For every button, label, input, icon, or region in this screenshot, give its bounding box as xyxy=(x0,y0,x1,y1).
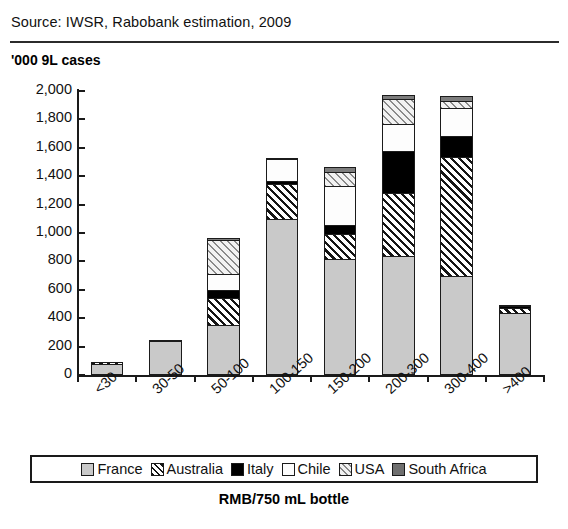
legend-swatch-italy-icon xyxy=(231,463,244,476)
y-tick-label: 2,000 xyxy=(36,81,72,97)
bar-segment-australia[interactable] xyxy=(324,234,357,260)
legend-label: USA xyxy=(355,461,385,477)
x-tick-mark xyxy=(485,375,487,382)
legend-item-usa[interactable]: USA xyxy=(339,461,385,477)
bar-segment-australia[interactable] xyxy=(440,157,473,276)
bar-group[interactable] xyxy=(266,159,299,375)
x-tick-mark xyxy=(135,375,137,382)
x-tick-mark xyxy=(77,375,79,382)
legend-item-southafrica[interactable]: South Africa xyxy=(392,461,486,477)
legend-label: South Africa xyxy=(408,461,486,477)
x-tick-mark xyxy=(427,375,429,382)
y-tick-label: 600 xyxy=(48,280,72,296)
bar-group[interactable] xyxy=(440,97,473,375)
bar-segment-chile[interactable] xyxy=(382,124,415,152)
bar-segment-france[interactable] xyxy=(266,219,299,375)
legend-item-france[interactable]: France xyxy=(81,461,142,477)
legend-item-italy[interactable]: Italy xyxy=(231,461,274,477)
y-tick-label: 1,000 xyxy=(36,223,72,239)
x-axis-title: RMB/750 mL bottle xyxy=(0,491,568,507)
bar-segment-australia[interactable] xyxy=(207,298,240,326)
bar-segment-chile[interactable] xyxy=(440,108,473,136)
x-tick-mark xyxy=(252,375,254,382)
bar-segment-italy[interactable] xyxy=(382,151,415,194)
bar-segment-chile[interactable] xyxy=(207,274,240,291)
chart-legend: FranceAustraliaItalyChileUSASouth Africa xyxy=(30,455,538,483)
bar-segment-france[interactable] xyxy=(382,256,415,375)
x-tick-mark xyxy=(194,375,196,382)
legend-label: Australia xyxy=(167,461,223,477)
bar-group[interactable] xyxy=(324,168,357,375)
source-note: Source: IWSR, Rabobank estimation, 2009 xyxy=(11,14,557,30)
bar-group[interactable] xyxy=(382,96,415,375)
y-tick-label: 200 xyxy=(48,337,72,353)
x-tick-mark xyxy=(368,375,370,382)
bar-group[interactable] xyxy=(207,239,240,375)
header-divider xyxy=(10,41,559,43)
legend-item-australia[interactable]: Australia xyxy=(151,461,223,477)
legend-swatch-chile-icon xyxy=(282,463,295,476)
y-tick-label: 1,800 xyxy=(36,109,72,125)
bar-segment-italy[interactable] xyxy=(440,136,473,159)
legend-label: Chile xyxy=(298,461,331,477)
bar-segment-france[interactable] xyxy=(324,259,357,375)
legend-swatch-australia-icon xyxy=(151,463,164,476)
x-tick-mark xyxy=(310,375,312,382)
legend-label: France xyxy=(97,461,142,477)
bar-segment-usa[interactable] xyxy=(324,172,357,188)
y-tick-label: 400 xyxy=(48,308,72,324)
y-tick-label: 1,400 xyxy=(36,166,72,182)
legend-swatch-france-icon xyxy=(81,463,94,476)
y-tick-label: 1,200 xyxy=(36,195,72,211)
y-tick-label: 0 xyxy=(64,365,72,381)
legend-swatch-usa-icon xyxy=(339,463,352,476)
bar-segment-usa[interactable] xyxy=(382,99,415,125)
legend-label: Italy xyxy=(247,461,274,477)
bar-segment-australia[interactable] xyxy=(266,184,299,220)
bar-segment-chile[interactable] xyxy=(266,159,299,182)
bar-segment-australia[interactable] xyxy=(382,193,415,257)
legend-item-chile[interactable]: Chile xyxy=(282,461,331,477)
bar-segment-chile[interactable] xyxy=(324,186,357,226)
x-tick-mark xyxy=(543,375,545,382)
bar-segment-usa[interactable] xyxy=(207,240,240,276)
bar-group[interactable] xyxy=(499,306,532,375)
y-tick-label: 1,600 xyxy=(36,138,72,154)
plot-area xyxy=(78,91,544,375)
y-tick-label: 800 xyxy=(48,251,72,267)
legend-swatch-southafrica-icon xyxy=(392,463,405,476)
y-axis-unit-title: '000 9L cases xyxy=(11,52,100,68)
